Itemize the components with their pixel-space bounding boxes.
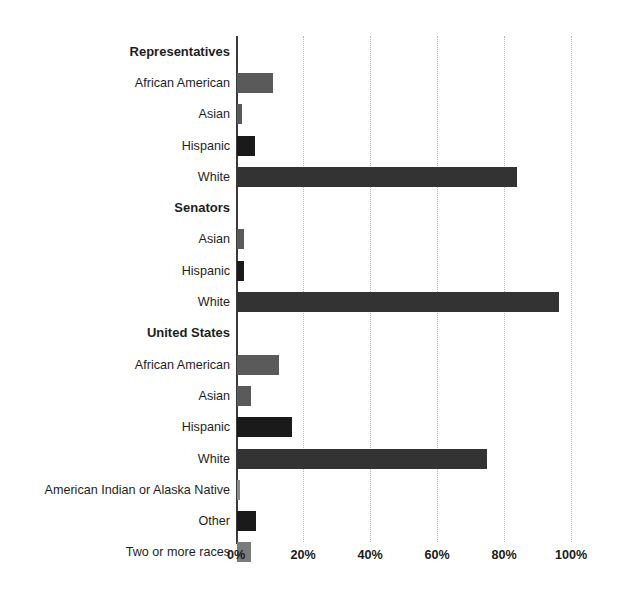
- category-label: White: [2, 170, 230, 184]
- bar-track: [237, 224, 572, 255]
- category-label: Asian: [2, 232, 230, 246]
- category-label: Hispanic: [2, 139, 230, 153]
- category-label: American Indian or Alaska Native: [2, 483, 230, 497]
- x-tick-label: 20%: [290, 548, 315, 562]
- bar-row: Asian: [0, 224, 625, 255]
- bar: [237, 292, 559, 312]
- bar-row: Hispanic: [0, 130, 625, 161]
- bar-track: [237, 130, 572, 161]
- bar-track: [237, 255, 572, 286]
- category-label: Other: [2, 514, 230, 528]
- bar-track: [237, 349, 572, 380]
- bar-track: [237, 380, 572, 411]
- bar-row: African American: [0, 349, 625, 380]
- bar: [237, 480, 240, 500]
- bar-track: [237, 505, 572, 536]
- bar-track: [237, 474, 572, 505]
- category-label: African American: [2, 358, 230, 372]
- bar-row: White: [0, 443, 625, 474]
- bar-row: Hispanic: [0, 412, 625, 443]
- category-label: White: [2, 452, 230, 466]
- bar: [237, 417, 292, 437]
- bar-row: African American: [0, 67, 625, 98]
- bar-track: [237, 161, 572, 192]
- bar: [237, 104, 242, 124]
- x-tick-label: 100%: [555, 548, 587, 562]
- bar-row: American Indian or Alaska Native: [0, 474, 625, 505]
- bar: [237, 386, 251, 406]
- bar: [237, 355, 279, 375]
- x-tick-label: 60%: [424, 548, 449, 562]
- bar-track: [237, 443, 572, 474]
- category-label: White: [2, 295, 230, 309]
- bar-track: [237, 67, 572, 98]
- group-header-row: Representatives: [0, 36, 625, 67]
- bar: [237, 229, 244, 249]
- bar: [237, 511, 256, 531]
- plot-area: RepresentativesAfrican AmericanAsianHisp…: [0, 0, 625, 597]
- bar-row: Other: [0, 505, 625, 536]
- bar-track: [237, 412, 572, 443]
- bar: [237, 73, 273, 93]
- group-header-row: United States: [0, 318, 625, 349]
- x-tick-label: 0%: [227, 548, 245, 562]
- chart-rows: RepresentativesAfrican AmericanAsianHisp…: [0, 36, 625, 568]
- bar: [237, 136, 255, 156]
- category-label: Asian: [2, 107, 230, 121]
- bar-track: [237, 286, 572, 317]
- category-label: Hispanic: [2, 420, 230, 434]
- bar-row: Asian: [0, 99, 625, 130]
- bar: [237, 449, 487, 469]
- bar: [237, 261, 244, 281]
- bar-row: White: [0, 286, 625, 317]
- group-label: Representatives: [2, 45, 230, 59]
- x-tick-label: 80%: [491, 548, 516, 562]
- x-tick-label: 40%: [357, 548, 382, 562]
- bar-track: [237, 99, 572, 130]
- group-header-row: Senators: [0, 192, 625, 223]
- category-label: African American: [2, 76, 230, 90]
- bar-row: Asian: [0, 380, 625, 411]
- group-label: United States: [2, 326, 230, 340]
- category-label: Asian: [2, 389, 230, 403]
- bar-row: White: [0, 161, 625, 192]
- category-label: Hispanic: [2, 264, 230, 278]
- x-axis-tick-labels: 0%20%40%60%80%100%: [0, 548, 625, 568]
- bar: [237, 167, 517, 187]
- group-label: Senators: [2, 201, 230, 215]
- bar-chart: RepresentativesAfrican AmericanAsianHisp…: [0, 0, 625, 597]
- bar-row: Hispanic: [0, 255, 625, 286]
